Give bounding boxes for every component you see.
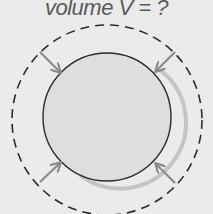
compression-diagram bbox=[0, 0, 213, 214]
arrow-upper-right-icon bbox=[156, 52, 175, 71]
arrow-lower-right-icon bbox=[156, 164, 175, 183]
arrow-lower-left-icon bbox=[40, 163, 60, 182]
arrow-upper-left-icon bbox=[40, 52, 60, 72]
